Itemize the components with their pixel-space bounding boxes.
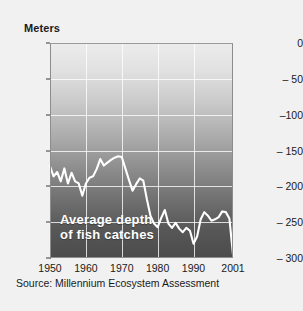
y-axis-title: Meters	[24, 22, 60, 34]
y-tick-label: – 250	[259, 216, 303, 228]
y-tick-label: – 200	[259, 180, 303, 192]
x-tick-label: 1990	[182, 262, 205, 274]
chart-figure: Meters 0– 50–100– 150– 200– 250– 300 195…	[0, 0, 303, 311]
x-tick-label: 1970	[110, 262, 133, 274]
annotation-line-1: Average depth	[60, 212, 154, 227]
annotation-line-2: of fish catches	[60, 227, 154, 242]
y-tick-label: 0	[259, 37, 303, 49]
x-tick-label: 1980	[146, 262, 169, 274]
y-tick-label: – 300	[259, 252, 303, 264]
x-tick-label: 1950	[38, 262, 61, 274]
y-tick-label: –100	[259, 109, 303, 121]
x-tick-label: 1960	[74, 262, 97, 274]
x-tick-label: 2001	[221, 262, 244, 274]
chart-annotation: Average depth of fish catches	[60, 212, 154, 242]
source-note: Source: Millennium Ecosystem Assessment	[16, 277, 219, 289]
y-tick-label: – 150	[259, 145, 303, 157]
y-tick-label: – 50	[259, 73, 303, 85]
